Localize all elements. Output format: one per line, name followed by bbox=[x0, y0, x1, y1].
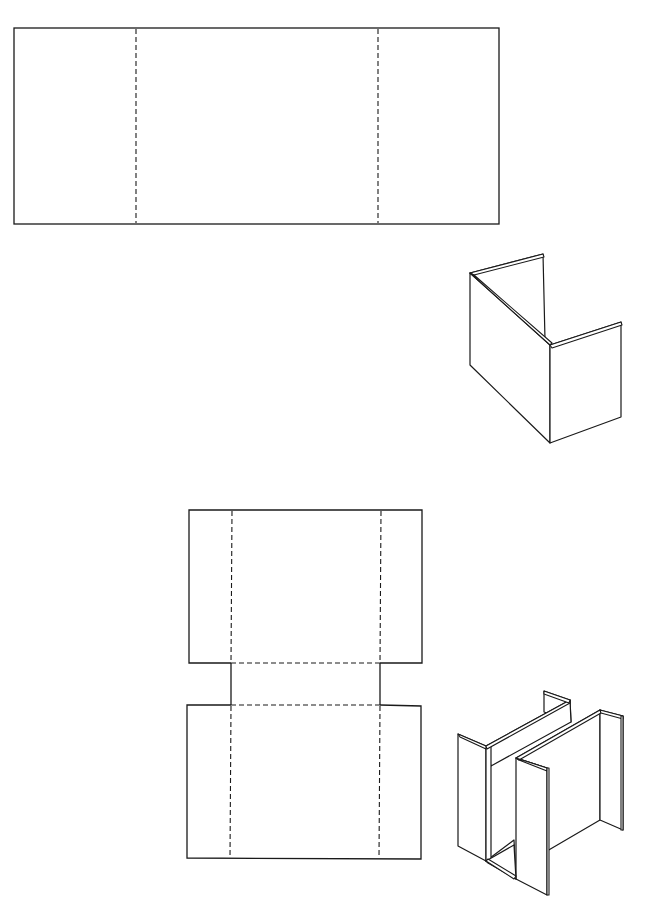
h-right-flap-edge bbox=[621, 716, 623, 830]
h-front-panel bbox=[516, 758, 547, 895]
net-2-fold-top-right bbox=[380, 511, 381, 663]
folded-2-h-channel bbox=[458, 691, 623, 895]
figure-canvas bbox=[0, 0, 651, 904]
net-2-top-rect bbox=[189, 510, 422, 663]
net-2-fold-bottom-right bbox=[379, 706, 380, 858]
net-1 bbox=[14, 28, 499, 224]
h-front-right-edge bbox=[547, 768, 549, 895]
folded-1-u-channel bbox=[470, 254, 622, 443]
net-2 bbox=[187, 510, 422, 859]
net-2-fold-bottom-left bbox=[230, 706, 231, 858]
net-2-bottom-rect bbox=[187, 705, 421, 859]
net-2-fold-top-left bbox=[231, 511, 232, 663]
h-left-outer-panel bbox=[458, 734, 486, 861]
h-middle-edge bbox=[486, 744, 491, 861]
u-right-panel bbox=[550, 322, 621, 443]
net-1-outline bbox=[14, 28, 499, 224]
h-right-side-flap bbox=[600, 710, 623, 830]
